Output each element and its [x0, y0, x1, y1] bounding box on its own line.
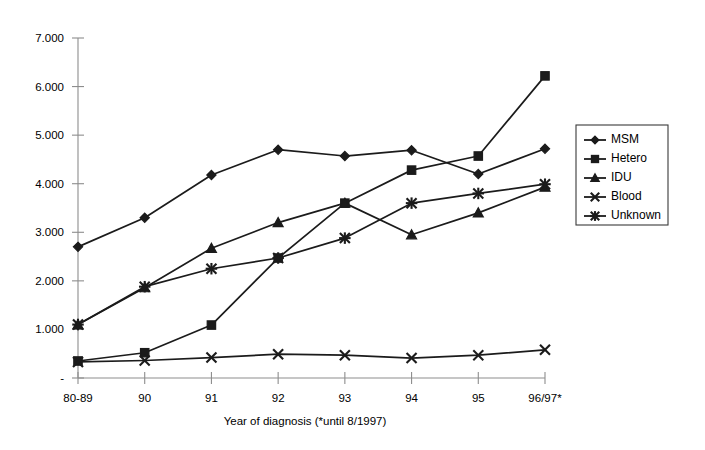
y-tick-label: 4.000 [35, 178, 64, 190]
x-tick-label: 94 [405, 392, 418, 404]
x-tick-label: 90 [138, 392, 151, 404]
marker-square [407, 166, 415, 174]
x-tick-label: 96/97* [528, 392, 562, 404]
y-tick-label: 5.000 [35, 129, 64, 141]
line-chart: -1.0002.0003.0004.0005.0006.0007.000 80-… [0, 0, 705, 450]
marker-square [541, 72, 549, 80]
legend-item-label: IDU [611, 170, 632, 184]
y-tick-label: 2.000 [35, 275, 64, 287]
x-tick-label: 92 [272, 392, 285, 404]
y-tick-label: - [60, 372, 64, 384]
marker-square [591, 155, 598, 162]
legend-item-label: Blood [611, 189, 642, 203]
marker-star [590, 211, 600, 221]
x-tick-label: 93 [338, 392, 351, 404]
x-axis-title: Year of diagnosis (*until 8/1997) [224, 415, 387, 427]
marker-star [339, 232, 351, 244]
marker-star [473, 188, 485, 200]
legend-item-label: Hetero [611, 151, 647, 165]
marker-star [72, 319, 84, 331]
chart-legend: MSMHeteroIDUBloodUnknown [576, 125, 668, 225]
marker-star [206, 263, 218, 275]
marker-square [141, 349, 149, 357]
x-tick-label: 91 [205, 392, 218, 404]
marker-square [207, 321, 215, 329]
marker-star [406, 197, 418, 209]
legend-item-label: Unknown [611, 208, 661, 222]
marker-star [139, 281, 151, 293]
x-tick-label: 80-89 [63, 392, 92, 404]
y-tick-label: 6.000 [35, 81, 64, 93]
y-tick-label: 1.000 [35, 323, 64, 335]
marker-star [272, 252, 284, 264]
marker-star [539, 178, 551, 190]
legend-item-label: MSM [611, 132, 639, 146]
marker-square [474, 152, 482, 160]
x-tick-label: 95 [472, 392, 485, 404]
y-tick-label: 3.000 [35, 226, 64, 238]
y-tick-label: 7.000 [35, 32, 64, 44]
